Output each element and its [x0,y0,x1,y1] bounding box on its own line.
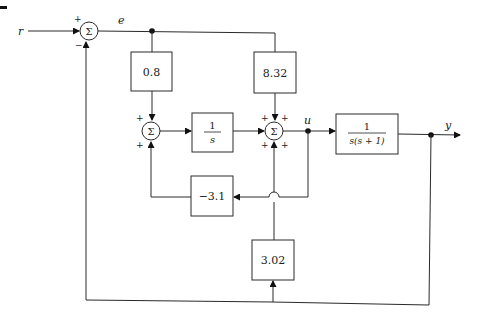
svg-text:Σ: Σ [147,126,154,137]
u-label: u [304,114,311,127]
plant-block [336,114,398,154]
svg-text:+: + [136,140,144,150]
svg-text:Σ: Σ [270,126,277,137]
svg-text:1: 1 [209,120,215,131]
svg-text:+: + [261,113,269,123]
svg-text:+: + [261,140,269,150]
svg-text:+: + [281,113,289,123]
sign-minus: − [75,40,83,50]
svg-text:s(s + 1): s(s + 1) [349,136,385,146]
svg-text:−3.1: −3.1 [199,190,226,203]
y-label: y [444,119,452,132]
sign-plus: + [74,14,82,24]
e-label: e [118,14,125,27]
summing-junction-2: Σ + + [136,113,160,150]
svg-text:3.02: 3.02 [261,254,286,267]
svg-text:8.32: 8.32 [263,67,288,80]
svg-text:0.8: 0.8 [143,66,161,79]
integrator-block [192,113,233,152]
svg-text:Σ: Σ [85,26,92,37]
svg-text:s: s [210,134,215,145]
block-diagram: r Σ + − e 0.8 8.32 Σ + + 1 s Σ + + + + [0,0,484,332]
r-label: r [18,25,24,38]
svg-text:+: + [281,140,289,150]
svg-text:+: + [136,113,144,123]
svg-text:1: 1 [364,121,370,132]
